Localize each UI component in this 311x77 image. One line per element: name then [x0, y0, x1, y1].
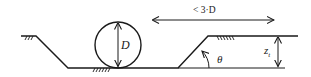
depth-label-subscript: t [268, 51, 271, 59]
trench-profile [21, 36, 298, 68]
trench-diagram: D < 3·D θ zt [0, 0, 311, 77]
diameter-label: D [120, 38, 130, 52]
depth-label: zt [263, 44, 271, 59]
angle-label: θ [217, 53, 223, 65]
spacing-label: < 3·D [193, 5, 216, 15]
angle-arc [202, 51, 209, 68]
